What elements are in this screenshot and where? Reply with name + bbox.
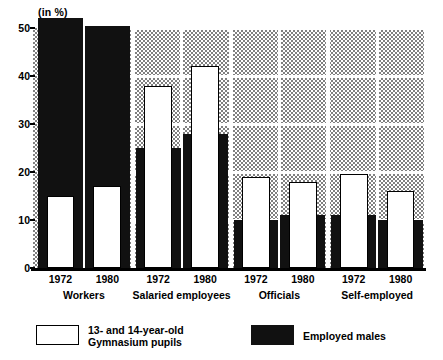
legend-entry-males: Employed males — [251, 325, 386, 345]
y-tick-label: 20 — [4, 166, 30, 178]
chart-legend: 13- and 14-year-old Gymnasium pupils Emp… — [36, 325, 436, 357]
x-axis-group-label: Workers — [63, 289, 105, 302]
y-tick-mark — [30, 27, 35, 29]
x-axis-labels: 19721980Workers19721980Salaried employee… — [37, 273, 424, 323]
y-tick-label: 40 — [4, 70, 30, 82]
x-tick-year-label: 1980 — [96, 273, 119, 285]
x-axis-group-label: Self-employed — [341, 289, 413, 302]
bar-gymnasium-pupils — [289, 182, 317, 268]
x-tick-year-label: 1972 — [49, 273, 72, 285]
bar-gymnasium-pupils — [191, 66, 219, 268]
gridline-vertical — [131, 28, 135, 268]
bar-chart: (in %) 01020304050 19721980Workers197219… — [0, 0, 443, 360]
x-axis-group-label: Officials — [259, 289, 300, 302]
bar-gymnasium-pupils — [387, 191, 415, 268]
legend-entry-pupils: 13- and 14-year-old Gymnasium pupils — [36, 325, 184, 348]
y-tick-mark — [30, 219, 35, 221]
x-tick-year-label: 1972 — [147, 273, 170, 285]
plot-area — [37, 28, 424, 268]
y-tick-label: 50 — [4, 22, 30, 34]
legend-swatch-males — [251, 325, 294, 345]
bar-gymnasium-pupils — [340, 174, 368, 268]
bar-gymnasium-pupils — [93, 186, 121, 268]
x-tick-year-label: 1980 — [389, 273, 412, 285]
legend-label-pupils: 13- and 14-year-old Gymnasium pupils — [88, 325, 184, 348]
gridline-vertical — [326, 28, 330, 268]
y-tick-label: 10 — [4, 214, 30, 226]
y-tick-mark — [30, 123, 35, 125]
y-tick-label: 30 — [4, 118, 30, 130]
x-tick-year-label: 1972 — [244, 273, 267, 285]
y-tick-mark — [30, 75, 35, 77]
legend-swatch-pupils — [36, 325, 79, 345]
x-tick-year-label: 1980 — [291, 273, 314, 285]
y-tick-mark — [30, 171, 35, 173]
bar-gymnasium-pupils — [47, 196, 75, 268]
bar-gymnasium-pupils — [144, 86, 172, 268]
gridline-vertical — [229, 28, 233, 268]
axis-unit-label: (in %) — [38, 6, 68, 18]
x-axis-baseline — [31, 268, 426, 271]
bar-gymnasium-pupils — [242, 177, 270, 268]
x-tick-year-label: 1972 — [342, 273, 365, 285]
x-axis-group-label: Salaried employees — [133, 289, 231, 302]
legend-label-males: Employed males — [303, 325, 386, 343]
x-tick-year-label: 1980 — [193, 273, 216, 285]
y-tick-label: 0 — [4, 262, 30, 274]
